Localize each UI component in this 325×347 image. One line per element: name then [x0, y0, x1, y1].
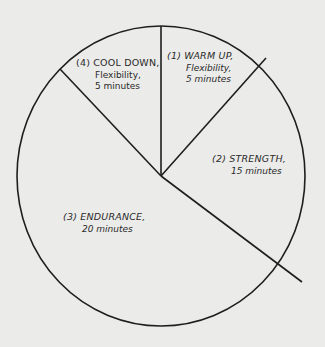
slice-label-duration: 15 minutes: [212, 166, 286, 178]
slice-label-duration: 5 minutes: [167, 74, 234, 86]
slice-label-strength: (2) STRENGTH, 15 minutes: [212, 153, 286, 177]
slice-label-head: (3) ENDURANCE,: [63, 211, 146, 222]
slice-label-duration: 20 minutes: [63, 224, 146, 236]
slice-divider-lower-right: [161, 176, 302, 282]
slice-label-cool-down: (4) COOL DOWN, Flexibility, 5 minutes: [76, 57, 160, 93]
slice-label-head: (1) WARM UP,: [167, 50, 234, 61]
slice-label-activity: Flexibility,: [76, 70, 160, 82]
slice-label-activity: Flexibility,: [167, 63, 234, 75]
slice-label-head: (2) STRENGTH,: [212, 153, 286, 164]
slice-label-head: (4) COOL DOWN,: [76, 57, 160, 68]
slice-label-endurance: (3) ENDURANCE, 20 minutes: [63, 211, 146, 235]
slice-label-warm-up: (1) WARM UP, Flexibility, 5 minutes: [167, 50, 234, 86]
slice-label-duration: 5 minutes: [76, 81, 160, 93]
